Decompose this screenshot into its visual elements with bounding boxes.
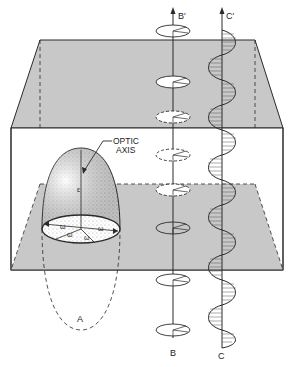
label-b-prime: B′: [178, 11, 186, 21]
omega-label-2: ω: [98, 225, 104, 232]
omega-label-3: ω: [67, 231, 73, 238]
omega-label-1: ω: [60, 223, 66, 230]
label-c: C: [218, 351, 225, 361]
crystal-optics-diagram: OPTIC AXIS ε ω ω ω ω A: [0, 0, 292, 367]
label-b: B: [170, 348, 176, 358]
label-a: A: [77, 314, 83, 324]
label-c-prime: C′: [226, 11, 234, 21]
omega-label-4: ω: [84, 234, 90, 241]
indicatrix-ellipsoid: [42, 141, 120, 330]
optic-axis-label-line2: AXIS: [116, 145, 136, 155]
epsilon-label: ε: [77, 186, 80, 193]
